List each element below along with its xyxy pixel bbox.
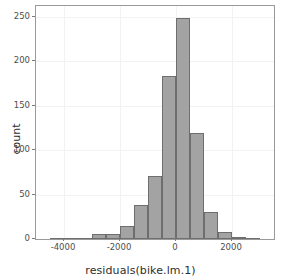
histogram-bar (204, 212, 218, 239)
histogram-bar (50, 238, 64, 240)
y-tick-label: 0 (0, 233, 30, 243)
x-tick-mark (63, 238, 64, 241)
x-tick-mark (119, 238, 120, 241)
x-tick-label: 0 (150, 242, 200, 252)
y-tick-label: 250 (0, 11, 30, 21)
histogram-bar (232, 237, 246, 239)
x-tick-mark (231, 238, 232, 241)
histogram-bar (246, 238, 260, 240)
y-tick-label: 150 (0, 100, 30, 110)
y-tick-label: 100 (0, 144, 30, 154)
x-tick-mark (175, 238, 176, 241)
histogram-chart: count 050100150200250 -4000-200002000 re… (0, 0, 281, 278)
histogram-bar (78, 238, 92, 240)
histogram-bar (148, 176, 162, 239)
y-tick-label: 200 (0, 55, 30, 65)
histogram-bar (92, 234, 106, 239)
histogram-bar (64, 238, 78, 240)
bars-layer (36, 6, 274, 239)
histogram-bar (176, 18, 190, 239)
histogram-bar (134, 205, 148, 239)
x-tick-label: -4000 (38, 242, 88, 252)
histogram-bar (218, 232, 232, 239)
histogram-bar (120, 226, 134, 239)
histogram-bar (162, 76, 176, 239)
histogram-bar (106, 234, 120, 239)
x-axis-title: residuals(bike.lm.1) (0, 264, 281, 277)
plot-panel (35, 5, 275, 240)
histogram-bar (190, 133, 204, 239)
x-tick-label: 2000 (206, 242, 256, 252)
gridline-horizontal (36, 239, 274, 240)
y-tick-label: 50 (0, 189, 30, 199)
x-tick-label: -2000 (94, 242, 144, 252)
